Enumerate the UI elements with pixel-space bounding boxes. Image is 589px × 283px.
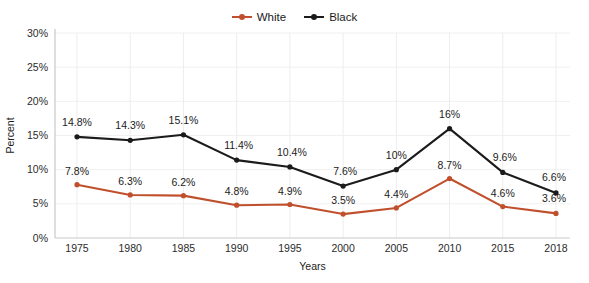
data-point-marker — [447, 126, 452, 131]
data-point-marker — [181, 132, 186, 137]
y-axis-title: Percent — [4, 117, 16, 153]
data-point-marker — [128, 138, 133, 143]
data-point-marker — [287, 202, 292, 207]
data-point-marker — [74, 182, 79, 187]
chart-container: White Black 0%5%10%15%20%25%30% 19751980… — [0, 0, 589, 283]
x-axis-tick-labels: 1975198019851990199520002005201020152018 — [65, 242, 568, 254]
axis-lines — [55, 29, 570, 238]
data-point-label: 11.4% — [224, 139, 253, 151]
data-point-marker — [234, 158, 239, 163]
x-tick-label: 2005 — [385, 242, 409, 254]
data-point-label: 14.3% — [115, 119, 145, 131]
data-point-label: 4.6% — [491, 187, 515, 199]
x-axis-title: Years — [299, 260, 325, 272]
data-point-label: 14.8% — [62, 116, 92, 128]
y-tick-label: 25% — [27, 61, 48, 73]
data-point-label: 6.3% — [118, 175, 142, 187]
y-axis-tick-labels: 0%5%10%15%20%25%30% — [27, 27, 48, 244]
data-point-marker — [181, 193, 186, 198]
plot-area: 0%5%10%15%20%25%30% 19751980198519901995… — [0, 0, 589, 283]
data-point-label: 16% — [439, 108, 460, 120]
data-point-labels: 7.8%6.3%6.2%4.8%4.9%3.5%4.4%8.7%4.6%3.6%… — [62, 108, 566, 206]
data-point-marker — [74, 134, 79, 139]
data-point-label: 4.8% — [225, 185, 249, 197]
data-point-label: 15.1% — [169, 114, 199, 126]
x-tick-label: 1995 — [278, 242, 302, 254]
data-point-marker — [341, 211, 346, 216]
data-point-label: 8.7% — [438, 159, 462, 171]
data-point-marker — [394, 205, 399, 210]
data-point-label: 10.4% — [277, 146, 307, 158]
y-tick-label: 15% — [27, 129, 48, 141]
data-point-label: 3.6% — [542, 192, 566, 204]
data-point-marker — [500, 204, 505, 209]
x-tick-label: 2015 — [491, 242, 515, 254]
data-point-marker — [553, 211, 558, 216]
data-point-label: 7.8% — [65, 165, 89, 177]
x-tick-label: 1985 — [172, 242, 196, 254]
data-point-label: 6.2% — [171, 176, 195, 188]
data-point-label: 10% — [386, 149, 407, 161]
data-point-label: 4.9% — [278, 185, 302, 197]
data-point-label: 6.6% — [542, 171, 566, 183]
data-point-label: 7.6% — [333, 165, 357, 177]
y-tick-label: 30% — [27, 27, 48, 39]
y-tick-label: 20% — [27, 95, 48, 107]
data-point-label: 3.5% — [331, 194, 355, 206]
data-point-marker — [447, 176, 452, 181]
x-tick-label: 2000 — [331, 242, 355, 254]
data-point-marker — [394, 167, 399, 172]
series-line-white — [77, 179, 556, 215]
x-tick-label: 1990 — [225, 242, 249, 254]
data-point-label: 9.6% — [493, 151, 517, 163]
data-point-label: 4.4% — [384, 188, 408, 200]
data-point-marker — [500, 170, 505, 175]
data-series — [74, 126, 558, 217]
x-tick-label: 2018 — [544, 242, 568, 254]
data-point-marker — [234, 203, 239, 208]
gridlines — [55, 33, 570, 238]
x-tick-label: 2010 — [438, 242, 462, 254]
y-tick-label: 10% — [27, 163, 48, 175]
y-tick-label: 0% — [33, 232, 48, 244]
x-tick-label: 1980 — [119, 242, 143, 254]
x-tick-label: 1975 — [65, 242, 89, 254]
data-point-marker — [128, 192, 133, 197]
data-point-marker — [341, 183, 346, 188]
series-line-black — [77, 129, 556, 193]
y-tick-label: 5% — [33, 197, 48, 209]
data-point-marker — [287, 164, 292, 169]
